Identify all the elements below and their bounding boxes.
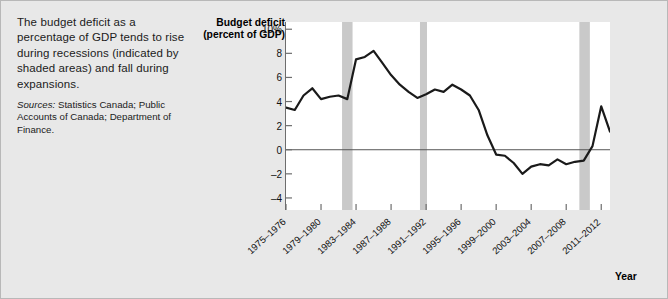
recession-bands-group (342, 22, 590, 210)
recession-band (579, 22, 590, 210)
x-axis-title: Year (615, 271, 637, 282)
line-chart-svg (286, 22, 610, 210)
y-tick-label: 6 (242, 72, 282, 83)
y-tick-label: 2 (242, 120, 282, 131)
caption-sources-text: Sources: Statistics Canada; Public Accou… (17, 99, 185, 136)
recession-band (420, 22, 427, 210)
sources-label: Sources: (17, 99, 55, 110)
y-tick-label: 0 (242, 144, 282, 155)
y-tick-label: –2 (242, 168, 282, 179)
y-tick-label: –4 (242, 192, 282, 203)
x-axis-tick-labels: 1975–19761979–19801983–19841987–19881991… (285, 212, 625, 282)
y-tick-label: 10% (242, 24, 282, 35)
y-axis-tick-labels: 10%86420–2–4 (240, 22, 282, 210)
figure-container: The budget deficit as a percentage of GD… (0, 0, 668, 299)
deficit-line-series (286, 51, 610, 174)
recession-band (342, 22, 353, 210)
caption-main-text: The budget deficit as a percentage of GD… (17, 15, 185, 92)
y-tick-marks-group (286, 29, 292, 198)
plot-area (285, 22, 610, 210)
caption-block: The budget deficit as a percentage of GD… (17, 15, 185, 136)
y-tick-label: 4 (242, 96, 282, 107)
x-tick-marks-group (286, 204, 601, 210)
y-tick-label: 8 (242, 48, 282, 59)
